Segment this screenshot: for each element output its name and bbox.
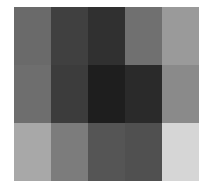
heatmap-cell-r1-c2 — [51, 7, 88, 65]
heatmap-cell-r3-c4 — [125, 123, 162, 181]
heatmap-cell-r2-c1 — [14, 65, 51, 123]
heatmap-cell-r3-c1 — [14, 123, 51, 181]
heatmap-cell-r3-c5 — [162, 123, 199, 181]
heatmap-cell-r2-c4 — [125, 65, 162, 123]
heatmap-cell-r1-c1 — [14, 7, 51, 65]
heatmap-cell-r1-c3 — [88, 7, 125, 65]
heatmap-cell-r2-c3 — [88, 65, 125, 123]
heatmap-cell-r3-c3 — [88, 123, 125, 181]
heatmap-cell-r1-c5 — [162, 7, 199, 65]
heatmap-cell-r1-c4 — [125, 7, 162, 65]
heatmap-cell-r2-c5 — [162, 65, 199, 123]
heatmap-cell-r2-c2 — [51, 65, 88, 123]
heatmap-cell-r3-c2 — [51, 123, 88, 181]
heatmap — [14, 7, 199, 181]
